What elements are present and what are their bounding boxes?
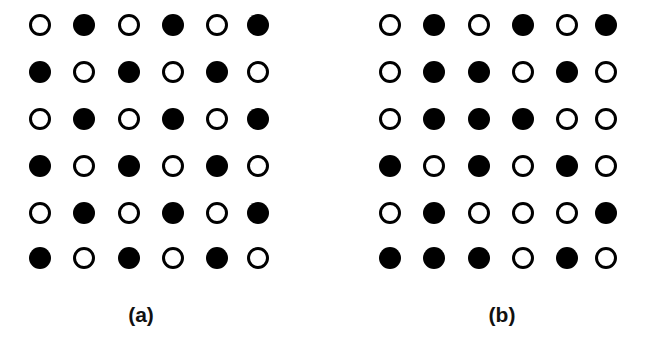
open-circle-icon xyxy=(556,14,578,36)
filled-circle-icon xyxy=(468,108,490,130)
open-circle-icon xyxy=(512,61,534,83)
open-circle-icon xyxy=(512,155,534,177)
open-circle-icon xyxy=(512,202,534,224)
open-circle-icon xyxy=(512,247,534,269)
open-circle-icon xyxy=(556,202,578,224)
filled-circle-icon xyxy=(423,14,445,36)
filled-circle-icon xyxy=(468,247,490,269)
filled-circle-icon xyxy=(423,247,445,269)
filled-circle-icon xyxy=(556,61,578,83)
filled-circle-icon xyxy=(556,247,578,269)
open-circle-icon xyxy=(595,247,617,269)
open-circle-icon xyxy=(379,108,401,130)
filled-circle-icon xyxy=(512,14,534,36)
open-circle-icon xyxy=(379,61,401,83)
filled-circle-icon xyxy=(512,108,534,130)
panel-label-b: (b) xyxy=(489,303,516,327)
filled-circle-icon xyxy=(423,202,445,224)
open-circle-icon xyxy=(595,155,617,177)
filled-circle-icon xyxy=(423,108,445,130)
filled-circle-icon xyxy=(556,155,578,177)
open-circle-icon xyxy=(468,202,490,224)
open-circle-icon xyxy=(595,108,617,130)
filled-circle-icon xyxy=(595,14,617,36)
open-circle-icon xyxy=(379,14,401,36)
filled-circle-icon xyxy=(468,155,490,177)
filled-circle-icon xyxy=(423,61,445,83)
open-circle-icon xyxy=(423,155,445,177)
panel-b: (b) xyxy=(0,0,324,346)
open-circle-icon xyxy=(556,108,578,130)
open-circle-icon xyxy=(379,202,401,224)
filled-circle-icon xyxy=(468,61,490,83)
filled-circle-icon xyxy=(379,247,401,269)
filled-circle-icon xyxy=(379,155,401,177)
open-circle-icon xyxy=(468,14,490,36)
filled-circle-icon xyxy=(595,202,617,224)
open-circle-icon xyxy=(595,61,617,83)
